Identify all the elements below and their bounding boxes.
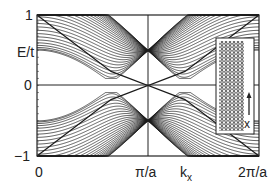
x-axis-label-k: k (180, 164, 187, 180)
band-structure-plot (0, 0, 278, 186)
y-tick-zero: 0 (24, 78, 32, 92)
y-tick-bottom: −1 (14, 149, 30, 163)
x-tick-pi: π/a (135, 165, 156, 179)
x-axis-label: kx (180, 165, 192, 185)
honeycomb-lattice (219, 41, 244, 131)
x-tick-zero: 0 (35, 165, 43, 179)
x-axis-label-sub: x (187, 172, 192, 183)
y-axis-label: E/t (17, 45, 34, 59)
y-tick-top: 1 (25, 8, 33, 22)
x-tick-2pi: 2π/a (238, 165, 267, 179)
inset-axis-label: x (244, 117, 250, 131)
